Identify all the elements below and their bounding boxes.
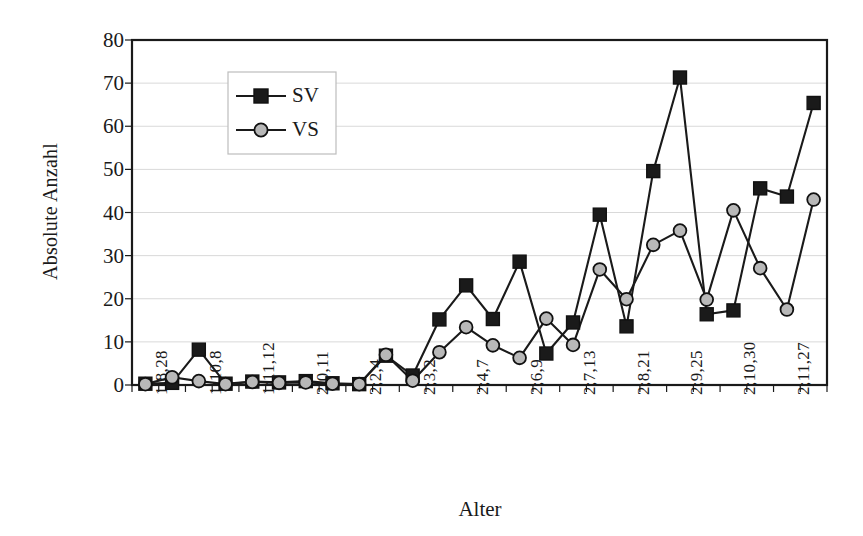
data-point-sv	[460, 279, 473, 292]
data-point-vs	[567, 338, 580, 351]
data-point-sv	[700, 308, 713, 321]
legend-label-sv: SV	[292, 83, 319, 108]
data-point-vs	[192, 375, 205, 388]
data-point-sv	[486, 313, 499, 326]
data-point-vs	[647, 238, 660, 251]
data-point-vs	[674, 224, 687, 237]
data-point-sv	[620, 320, 633, 333]
plot-area	[0, 0, 863, 536]
legend-label-vs: VS	[292, 117, 319, 142]
data-point-vs	[326, 377, 339, 390]
legend-marker-sv	[254, 89, 268, 103]
legend-marker-vs	[254, 123, 267, 136]
data-point-vs	[513, 351, 526, 364]
data-point-sv	[673, 71, 686, 84]
legend-box	[228, 72, 336, 154]
data-point-sv	[780, 190, 793, 203]
data-point-vs	[380, 348, 393, 361]
data-point-sv	[433, 313, 446, 326]
data-point-vs	[727, 204, 740, 217]
data-point-sv	[513, 255, 526, 268]
data-point-vs	[620, 293, 633, 306]
data-point-sv	[727, 304, 740, 317]
data-point-sv	[540, 347, 553, 360]
data-point-vs	[486, 339, 499, 352]
data-point-vs	[433, 346, 446, 359]
chart-container: Absolute Anzahl 01020304050607080 1;8,28…	[0, 0, 863, 536]
data-point-vs	[540, 312, 553, 325]
data-point-sv	[567, 316, 580, 329]
data-point-vs	[460, 321, 473, 334]
data-point-sv	[647, 165, 660, 178]
data-point-sv	[807, 96, 820, 109]
series-line-vs	[145, 200, 813, 385]
data-point-vs	[754, 262, 767, 275]
data-point-vs	[219, 378, 232, 391]
data-point-vs	[807, 193, 820, 206]
data-point-vs	[406, 374, 419, 387]
data-point-vs	[273, 376, 286, 389]
data-point-vs	[139, 378, 152, 391]
data-point-vs	[166, 371, 179, 384]
data-point-vs	[299, 376, 312, 389]
data-point-vs	[593, 263, 606, 276]
data-point-sv	[754, 182, 767, 195]
data-point-vs	[700, 293, 713, 306]
data-point-sv	[192, 343, 205, 356]
data-point-vs	[353, 378, 366, 391]
data-point-vs	[246, 376, 259, 389]
data-point-vs	[781, 303, 794, 316]
data-point-sv	[593, 208, 606, 221]
x-axis-title: Alter	[132, 497, 828, 522]
